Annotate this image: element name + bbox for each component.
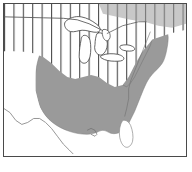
figure-title: Distribution map of eastern North Americ… bbox=[0, 0, 1, 1]
map-frame bbox=[3, 3, 187, 157]
map-figure: Distribution map of eastern North Americ… bbox=[0, 0, 192, 172]
lake-michigan bbox=[79, 35, 91, 63]
map-svg bbox=[4, 4, 186, 156]
